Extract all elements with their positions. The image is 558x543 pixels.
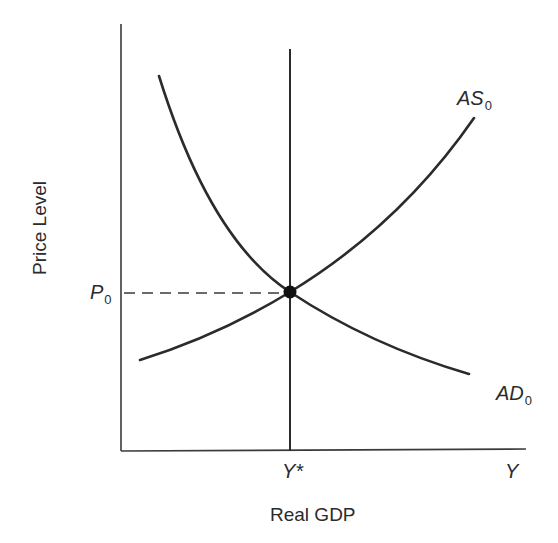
aggregate-supply-subscript: 0 [485, 98, 492, 113]
price-level-base: P [90, 281, 103, 303]
aggregate-demand-curve [159, 76, 469, 374]
equilibrium-point [284, 286, 297, 299]
price-level-marker-label: P0 [90, 282, 112, 302]
aggregate-supply-label: AS0 [457, 88, 492, 108]
potential-output-label: Y* [282, 461, 303, 481]
aggregate-supply-curve [140, 118, 474, 360]
aggregate-demand-base: AD [496, 382, 524, 404]
x-axis-end-label: Y [505, 461, 518, 481]
price-level-subscript: 0 [104, 292, 111, 307]
aggregate-demand-subscript: 0 [525, 393, 532, 408]
aggregate-demand-label: AD0 [496, 383, 532, 403]
y-axis-label: Price Level [29, 181, 51, 275]
x-axis-label: Real GDP [270, 505, 356, 524]
aggregate-supply-base: AS [457, 87, 484, 109]
x-axis [121, 449, 526, 451]
diagram-canvas [0, 0, 558, 543]
ad-as-diagram: Price Level P0 AS0 AD0 Y* Y Real GDP [0, 0, 558, 543]
